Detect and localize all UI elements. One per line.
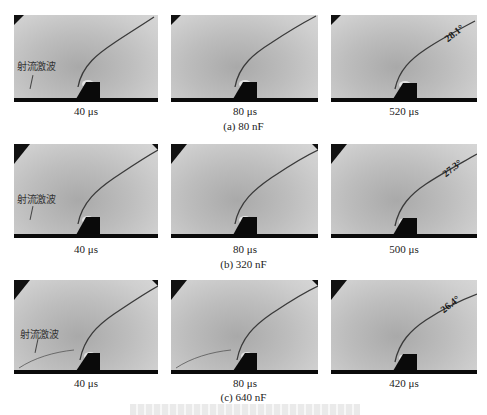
time-label: 80 μs	[170, 105, 320, 117]
time-label: 520 μs	[329, 105, 479, 117]
time-label: 80 μs	[170, 243, 320, 255]
shock-wave-graphic	[171, 15, 318, 102]
jet-shock-label: 射流激波	[17, 58, 55, 73]
jet-shock-label: 射流激波	[20, 326, 58, 341]
jet-shock-label: 射流激波	[17, 191, 55, 206]
row-caption: (b) 320 nF	[0, 258, 487, 270]
schlieren-image-a2	[171, 15, 318, 102]
time-label: 40 μs	[11, 243, 161, 255]
figure-title-faded	[130, 404, 360, 415]
shock-wave-graphic	[171, 144, 318, 238]
time-label: 40 μs	[11, 377, 161, 389]
row-caption: (c) 640 nF	[0, 391, 487, 403]
shock-wave-graphic	[171, 280, 318, 374]
schlieren-image-b2	[171, 144, 318, 238]
row-caption: (a) 80 nF	[0, 120, 487, 132]
schlieren-image-c2	[171, 280, 318, 374]
time-label: 420 μs	[329, 377, 479, 389]
time-label: 500 μs	[329, 243, 479, 255]
time-label: 40 μs	[11, 105, 161, 117]
time-label: 80 μs	[170, 377, 320, 389]
